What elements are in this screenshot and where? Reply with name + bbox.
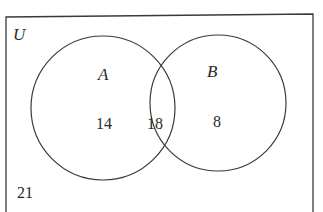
a-only-count: 14 <box>96 115 112 132</box>
set-b-circle <box>150 35 286 171</box>
venn-diagram: U A B 14 18 8 21 <box>0 0 323 212</box>
set-a-label: A <box>97 65 109 84</box>
universe-label: U <box>13 25 27 44</box>
set-b-label: B <box>207 62 218 81</box>
set-a-circle <box>31 36 175 180</box>
universe-rectangle <box>6 14 313 212</box>
outside-count: 21 <box>17 184 33 201</box>
intersection-count: 18 <box>147 115 163 132</box>
b-only-count: 8 <box>213 113 221 130</box>
